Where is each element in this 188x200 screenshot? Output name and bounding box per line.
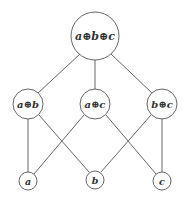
node-bc-label: b⊕c xyxy=(151,99,172,110)
node-a-label: a xyxy=(25,176,31,187)
edge-abc-bc xyxy=(111,54,152,93)
node-ab-label: a⊕b xyxy=(17,99,39,110)
node-abc-label: a⊕b⊕c xyxy=(75,30,115,43)
node-ac-label: a⊕c xyxy=(85,99,106,110)
node-a: a xyxy=(19,172,37,190)
node-c: c xyxy=(153,172,171,190)
lattice-diagram: a⊕b⊕c a⊕b a⊕c b⊕c a b c xyxy=(0,0,188,200)
edge-abc-ab xyxy=(38,54,80,93)
edge-bc-b xyxy=(101,115,151,172)
node-abc: a⊕b⊕c xyxy=(71,12,119,60)
edge-ac-a xyxy=(34,115,84,174)
node-ab: a⊕b xyxy=(13,89,43,119)
edge-ab-b xyxy=(39,115,89,172)
node-c-label: c xyxy=(159,176,165,187)
node-b-label: b xyxy=(92,175,99,186)
node-b: b xyxy=(86,171,104,189)
edge-ac-c xyxy=(106,115,156,174)
node-ac: a⊕c xyxy=(80,89,110,119)
node-bc: b⊕c xyxy=(147,89,177,119)
